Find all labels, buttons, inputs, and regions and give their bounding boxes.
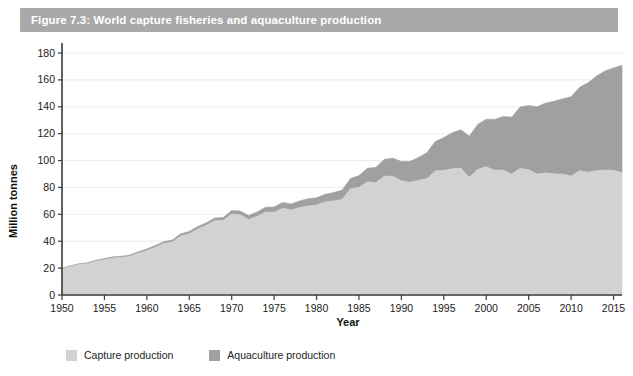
y-tick-label: 20 xyxy=(43,262,55,274)
x-tick-label: 1985 xyxy=(347,302,371,314)
x-tick-label: 2015 xyxy=(602,302,626,314)
y-tick-label: 120 xyxy=(37,127,55,139)
x-tick-label: 1975 xyxy=(262,302,286,314)
y-tick-label: 140 xyxy=(37,100,55,112)
x-tick-label: 1960 xyxy=(135,302,159,314)
page-title: Figure 7.3: World capture fisheries and … xyxy=(20,14,381,26)
chart-plot-area: 0204060801001201401601801950195519601965… xyxy=(0,36,633,336)
x-axis-title: Year xyxy=(336,316,360,328)
x-tick-label: 1995 xyxy=(432,302,456,314)
legend-label-aquaculture: Aquaculture production xyxy=(227,349,335,361)
figure-container: Figure 7.3: World capture fisheries and … xyxy=(0,0,633,376)
figure-title-bar: Figure 7.3: World capture fisheries and … xyxy=(20,8,618,32)
x-tick-label: 2010 xyxy=(559,302,583,314)
chart-legend: Capture production Aquaculture productio… xyxy=(0,342,633,368)
x-tick-label: 1970 xyxy=(220,302,244,314)
x-tick-label: 2000 xyxy=(475,302,499,314)
legend-swatch-capture xyxy=(66,350,77,361)
y-axis-title: Million tonnes xyxy=(7,164,19,238)
legend-label-capture: Capture production xyxy=(84,349,173,361)
y-tick-label: 80 xyxy=(43,181,55,193)
legend-item-capture: Capture production xyxy=(66,349,173,361)
x-tick-label: 1990 xyxy=(390,302,414,314)
y-tick-label: 160 xyxy=(37,73,55,85)
x-tick-label: 1950 xyxy=(50,302,74,314)
x-tick-label: 1955 xyxy=(93,302,117,314)
x-tick-label: 2005 xyxy=(517,302,541,314)
y-tick-label: 40 xyxy=(43,235,55,247)
x-tick-label: 1980 xyxy=(305,302,329,314)
legend-swatch-aquaculture xyxy=(209,350,220,361)
y-tick-label: 180 xyxy=(37,47,55,59)
stacked-area-chart: 0204060801001201401601801950195519601965… xyxy=(0,36,633,336)
y-tick-label: 100 xyxy=(37,154,55,166)
x-tick-label: 1965 xyxy=(178,302,202,314)
y-tick-label: 0 xyxy=(49,289,55,301)
y-tick-label: 60 xyxy=(43,208,55,220)
legend-item-aquaculture: Aquaculture production xyxy=(209,349,335,361)
